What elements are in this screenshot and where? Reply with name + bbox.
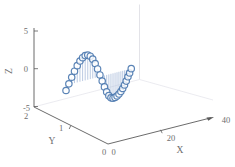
pane-edge-floor-right	[140, 80, 214, 101]
data-marker	[66, 81, 72, 87]
data-marker	[128, 65, 134, 71]
z-tick-label-5: 5	[24, 26, 28, 36]
y-tick-label-0: 0	[102, 147, 106, 157]
data-marker	[97, 72, 103, 78]
data-markers-group	[63, 52, 135, 102]
y-tick-1	[69, 126, 71, 130]
stem3d-plot: 5 0 -5 2 1 0 0 20 40 X Y Z	[0, 0, 235, 167]
axis-labels: X Y Z	[4, 68, 184, 155]
y-axis-line	[34, 107, 108, 144]
x-axis-arrowhead	[207, 117, 215, 121]
y-axis-label: Y	[49, 136, 56, 146]
x-tick-label-40: 40	[222, 115, 231, 125]
tick-marks	[34, 31, 162, 133]
figure-canvas: 5 0 -5 2 1 0 0 20 40 X Y Z	[0, 0, 235, 167]
data-marker	[63, 87, 69, 93]
x-axis-line	[108, 118, 211, 144]
z-tick-label-0: 0	[24, 64, 28, 74]
y-tick-label-2: 2	[24, 111, 28, 121]
z-axis-label: Z	[4, 68, 14, 74]
y-tick-label-1: 1	[59, 123, 63, 133]
x-axis-label: X	[177, 145, 184, 155]
data-marker	[69, 74, 75, 80]
data-marker	[94, 66, 100, 72]
x-tick-label-0: 0	[111, 147, 115, 157]
x-tick-label-20: 20	[167, 133, 176, 143]
